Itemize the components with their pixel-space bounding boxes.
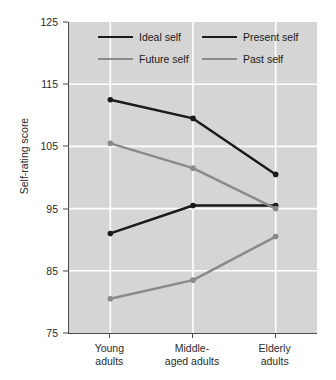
data-point-marker — [190, 165, 196, 171]
y-tick-label: 125 — [24, 16, 58, 28]
x-tick-label-line: Elderly — [220, 342, 330, 355]
legend-item: Ideal self — [98, 31, 202, 43]
data-point-marker — [273, 234, 279, 240]
y-tick-label: 105 — [24, 140, 58, 152]
legend-label: Past self — [243, 53, 283, 65]
data-point-marker — [273, 206, 279, 212]
chart-figure: Self-rating score 125115105958575 Younga… — [0, 0, 336, 380]
data-point-marker — [108, 97, 114, 103]
legend-item: Present self — [202, 31, 313, 43]
legend-line-swatch — [202, 58, 237, 60]
data-point-marker — [108, 296, 114, 302]
x-tick-label-line: adults — [220, 355, 330, 368]
y-tick-label: 75 — [24, 327, 58, 339]
legend-line-swatch — [98, 36, 133, 38]
legend-label: Ideal self — [139, 31, 181, 43]
data-point-marker — [108, 231, 114, 237]
data-point-marker — [190, 277, 196, 283]
legend-label: Future self — [139, 53, 189, 65]
chart-legend: Ideal selfPresent selfFuture selfPast se… — [98, 26, 313, 70]
y-tick-label: 85 — [24, 265, 58, 277]
data-point-marker — [190, 116, 196, 122]
data-point-marker — [108, 140, 114, 146]
legend-item: Future self — [98, 53, 202, 65]
legend-item: Past self — [202, 53, 313, 65]
legend-line-swatch — [202, 36, 237, 38]
legend-line-swatch — [98, 58, 133, 60]
y-tick-label: 95 — [24, 203, 58, 215]
data-point-marker — [273, 172, 279, 178]
y-tick-label: 115 — [24, 78, 58, 90]
x-tick-label: Elderlyadults — [220, 342, 330, 367]
legend-label: Present self — [243, 31, 298, 43]
data-point-marker — [190, 203, 196, 209]
